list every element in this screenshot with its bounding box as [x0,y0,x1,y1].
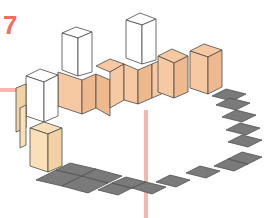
yellow-block-3-side [48,128,62,172]
yellow-block-3-front [30,128,48,172]
floor-tiles-right [212,89,262,147]
orange-block-5-body [190,51,208,94]
floor-tiles-bottom [36,152,262,195]
orange-block-4-body [158,56,174,98]
white-block-c-side [44,75,58,122]
orange-block-2-front [96,74,110,116]
white-block-a-side [78,32,92,76]
orange-block-4-side [174,56,188,98]
yellow-block-2-front [20,105,26,148]
orange-block-1-side [82,74,96,114]
white-block-a-front [62,33,78,76]
white-block-b-front [126,20,142,64]
orange-block-3-front [124,64,138,104]
isometric-block-diagram [0,0,278,218]
orange-block-5-side [208,50,222,94]
white-block-c-front [26,76,44,122]
orange-block-3-side [138,64,152,104]
white-block-b-side [142,19,156,64]
orange-block-2-body [110,64,124,108]
orange-block-1-front [58,72,82,114]
